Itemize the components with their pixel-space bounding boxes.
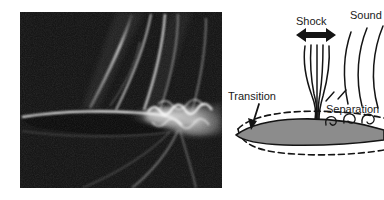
- transonic-buffet-schematic: Shock Sound Transition Separation: [222, 0, 384, 200]
- schlieren-photograph-canvas: [20, 12, 222, 188]
- sound-wave-arcs: [344, 26, 383, 108]
- label-separation: Separation: [326, 103, 379, 115]
- schematic-canvas: Shock Sound Transition Separation: [222, 0, 384, 200]
- schlieren-photograph: [20, 12, 222, 188]
- film-grain: [20, 12, 222, 188]
- figure-root: Shock Sound Transition Separation: [0, 0, 384, 200]
- label-shock: Shock: [296, 15, 327, 27]
- shock-arrow-icon: [296, 28, 336, 42]
- separation-pointer: [326, 90, 346, 101]
- label-sound: Sound: [350, 9, 382, 21]
- schlieren-content: [20, 12, 222, 188]
- label-transition: Transition: [228, 90, 276, 102]
